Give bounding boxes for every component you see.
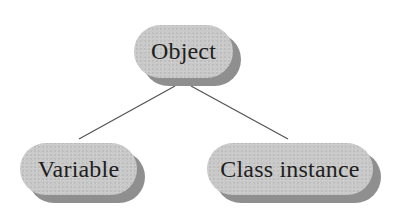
object-hierarchy-diagram: Object Variable Class instance [0,0,402,212]
edge-object-to-variable [79,86,175,139]
node-label: Class instance [207,143,373,195]
node-label: Object [134,25,233,78]
node-object: Object [134,25,233,78]
node-class-instance: Class instance [207,143,373,195]
edge-object-to-class-instance [191,86,288,139]
node-variable: Variable [20,143,137,195]
node-label: Variable [20,143,137,195]
